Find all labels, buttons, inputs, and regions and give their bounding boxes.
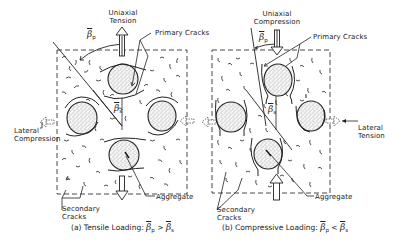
aggregate-top [262, 64, 295, 104]
beta-s-label-a: βs [114, 104, 122, 113]
lateral-tension-arrow-right [326, 116, 340, 126]
aggregate-right [296, 94, 325, 132]
beta-p-label-a: βp [87, 30, 96, 39]
aggregate-left [216, 100, 248, 136]
aggregate-label-a: Aggregate [156, 193, 193, 201]
lateral-tension-arrow-left [202, 117, 216, 127]
panel-b-compressive [202, 28, 358, 210]
caption-a: (a) Tensile Loading: βp > βs [71, 222, 174, 232]
lateral-compression-label: Lateral Compression [14, 127, 60, 143]
beta-s-label-b: βs [268, 105, 276, 114]
secondary-cracks-label-b: Secondary Cracks [217, 206, 257, 222]
tension-arrow-up [116, 27, 128, 56]
aggregate-top [100, 64, 146, 99]
panel-a-tensile [40, 27, 194, 210]
compression-arrow-down [271, 30, 283, 55]
aggregate-left [65, 97, 99, 136]
lateral-tension-label: Lateral Tension [358, 124, 388, 140]
beta-p-arc [80, 44, 122, 60]
aggregate-label-b: Aggregate [315, 193, 352, 201]
aggregate-bottom [251, 138, 283, 176]
compression-arrow-up [270, 174, 283, 200]
aggregate-bottom [104, 138, 146, 171]
uniaxial-compression-label: Uniaxial Compression [252, 10, 302, 26]
aggregate-right [146, 97, 178, 135]
primary-cracks-label-b: Primary Cracks [313, 33, 367, 41]
caption-b: (b) Compressive Loading: βp < βs [222, 222, 348, 232]
uniaxial-tension-label: Uniaxial Tension [104, 9, 142, 25]
tension-arrow-down [116, 176, 128, 200]
secondary-cracks-label-a: Secondary Cracks [62, 205, 102, 221]
beta-p-label-b: βp [259, 33, 268, 42]
primary-cracks-label-a: Primary Cracks [155, 29, 209, 37]
